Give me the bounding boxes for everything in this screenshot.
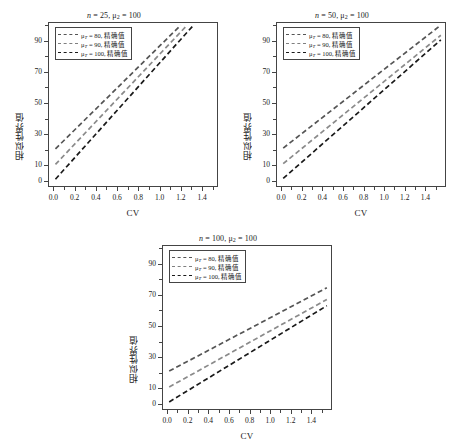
y-tick-minor bbox=[273, 87, 276, 88]
x-tick bbox=[343, 187, 344, 191]
y-tick-label: 70 bbox=[250, 67, 270, 76]
y-tick bbox=[272, 72, 276, 73]
y-tick-minor bbox=[45, 150, 48, 151]
y-tick-minor bbox=[45, 87, 48, 88]
x-tick-minor bbox=[312, 187, 313, 190]
x-tick-minor bbox=[239, 410, 240, 413]
y-tick-label: 30 bbox=[136, 352, 156, 361]
y-tick bbox=[44, 134, 48, 135]
y-tick bbox=[272, 165, 276, 166]
y-tick-minor bbox=[45, 25, 48, 26]
y-tick bbox=[158, 357, 162, 358]
y-tick-minor bbox=[273, 25, 276, 26]
x-tick-minor bbox=[436, 187, 437, 190]
y-tick-minor bbox=[159, 373, 162, 374]
chart-panel-bottom-center: n = 100, μ2 = 100 相似性界值 CV 0.00.20.40.60… bbox=[114, 223, 342, 446]
x-tick bbox=[425, 187, 426, 191]
series-line bbox=[169, 306, 327, 402]
x-tick-minor bbox=[64, 187, 65, 190]
x-tick bbox=[250, 410, 251, 414]
y-tick-minor bbox=[45, 119, 48, 120]
chart-panel-top-right: n = 50, μ2 = 100 相似性界值 CV 0.00.20.40.60.… bbox=[228, 0, 456, 223]
y-tick-label: 70 bbox=[136, 290, 156, 299]
x-tick-minor bbox=[198, 410, 199, 413]
x-tick bbox=[270, 410, 271, 414]
x-tick-label: 1.4 bbox=[299, 416, 323, 425]
x-tick bbox=[291, 410, 292, 414]
x-tick-minor bbox=[170, 187, 171, 190]
y-tick bbox=[158, 326, 162, 327]
series-line bbox=[169, 288, 327, 371]
y-tick-label: 30 bbox=[22, 129, 42, 138]
x-tick-minor bbox=[149, 187, 150, 190]
y-tick-minor bbox=[159, 248, 162, 249]
x-tick-minor bbox=[85, 187, 86, 190]
legend-item-label: μT = 100, 精确值 bbox=[309, 48, 356, 58]
x-tick-minor bbox=[322, 410, 323, 413]
y-tick bbox=[44, 41, 48, 42]
y-tick bbox=[272, 41, 276, 42]
chart-panel-top-left: n = 25, μ2 = 100 相似性界值 CV 0.00.20.40.60.… bbox=[0, 0, 228, 223]
x-tick-minor bbox=[291, 187, 292, 190]
legend-item: μT = 100, 精确值 bbox=[58, 48, 128, 57]
legend-top-right: μT = 80, 精确值μT = 90, 精确值μT = 100, 精确值 bbox=[283, 27, 360, 60]
y-tick-label: 90 bbox=[22, 36, 42, 45]
y-tick-label: 50 bbox=[136, 321, 156, 330]
x-tick-label: 1.4 bbox=[413, 193, 437, 202]
x-tick-minor bbox=[128, 187, 129, 190]
y-tick-label: 90 bbox=[136, 259, 156, 268]
y-tick-label: 10 bbox=[250, 160, 270, 169]
y-tick-minor bbox=[159, 310, 162, 311]
x-tick-minor bbox=[301, 410, 302, 413]
x-tick bbox=[167, 410, 168, 414]
legend-item: μT = 100, 精确值 bbox=[286, 48, 356, 57]
x-tick bbox=[384, 187, 385, 191]
y-tick-minor bbox=[45, 56, 48, 57]
x-tick bbox=[208, 410, 209, 414]
y-tick bbox=[158, 388, 162, 389]
legend-item-label: μT = 100, 精确值 bbox=[195, 271, 242, 281]
legend-line-swatch bbox=[286, 43, 306, 44]
x-tick-minor bbox=[353, 187, 354, 190]
x-tick-minor bbox=[415, 187, 416, 190]
y-tick bbox=[158, 404, 162, 405]
x-tick bbox=[281, 187, 282, 191]
x-tick-minor bbox=[177, 410, 178, 413]
y-tick-label: 0 bbox=[250, 176, 270, 185]
legend-top-left: μT = 80, 精确值μT = 90, 精确值μT = 100, 精确值 bbox=[55, 27, 132, 60]
legend-item-label: μT = 100, 精确值 bbox=[81, 48, 128, 58]
x-tick bbox=[188, 410, 189, 414]
x-tick-minor bbox=[374, 187, 375, 190]
y-tick-minor bbox=[159, 279, 162, 280]
x-tick bbox=[364, 187, 365, 191]
x-tick bbox=[96, 187, 97, 191]
legend-line-swatch bbox=[286, 52, 306, 53]
x-tick bbox=[311, 410, 312, 414]
y-tick-label: 10 bbox=[22, 160, 42, 169]
legend-line-swatch bbox=[58, 52, 78, 53]
legend-line-swatch bbox=[172, 266, 192, 267]
y-tick-minor bbox=[159, 342, 162, 343]
x-tick bbox=[181, 187, 182, 191]
legend-bottom-center: μT = 80, 精确值μT = 90, 精确值μT = 100, 精确值 bbox=[169, 250, 246, 283]
x-tick bbox=[229, 410, 230, 414]
y-tick-minor bbox=[273, 56, 276, 57]
y-tick-label: 50 bbox=[22, 98, 42, 107]
y-tick-label: 0 bbox=[22, 176, 42, 185]
legend-line-swatch bbox=[286, 34, 306, 35]
y-tick bbox=[44, 181, 48, 182]
y-tick bbox=[44, 72, 48, 73]
x-tick bbox=[405, 187, 406, 191]
y-tick-label: 10 bbox=[136, 383, 156, 392]
x-tick-minor bbox=[333, 187, 334, 190]
y-tick-minor bbox=[273, 150, 276, 151]
y-tick bbox=[44, 103, 48, 104]
y-tick bbox=[272, 134, 276, 135]
legend-line-swatch bbox=[58, 34, 78, 35]
x-tick-minor bbox=[260, 410, 261, 413]
x-tick bbox=[160, 187, 161, 191]
x-tick-minor bbox=[191, 187, 192, 190]
y-tick-label: 90 bbox=[250, 36, 270, 45]
x-tick-minor bbox=[394, 187, 395, 190]
x-tick-minor bbox=[280, 410, 281, 413]
